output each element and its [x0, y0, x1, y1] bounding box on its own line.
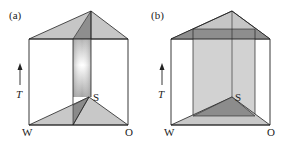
panel-b-label: (b) [151, 9, 164, 22]
phase-diagram-figure: (a) T S W O (b) [0, 0, 289, 143]
temperature-axis-label: T [158, 88, 165, 100]
temperature-axis-arrow-icon [160, 63, 165, 85]
vertex-label-s: S [93, 91, 99, 103]
vertex-label-w: W [164, 126, 175, 138]
vertex-label-w: W [22, 126, 33, 138]
temperature-axis-label: T [16, 88, 23, 100]
panel-a: (a) T S W O [9, 9, 133, 138]
panel-b: (b) T S W O [151, 9, 275, 138]
panel-a-label: (a) [9, 9, 22, 22]
vertex-label-o: O [125, 126, 133, 138]
vertex-label-o: O [267, 126, 275, 138]
vertex-label-s: S [235, 91, 241, 103]
temperature-axis-arrow-icon [18, 63, 23, 85]
